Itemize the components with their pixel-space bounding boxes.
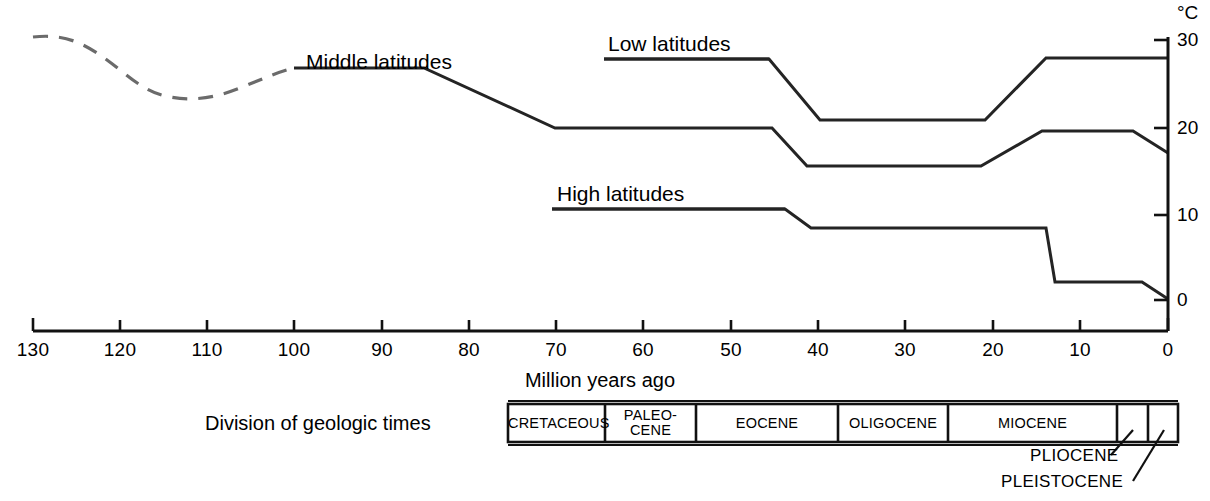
epoch-cell-paleocene-line2: CENE xyxy=(605,423,696,438)
x-axis-title: Million years ago xyxy=(525,370,675,390)
paleotemperature-figure: °C 30 20 10 0 130 120 110 100 90 80 70 6… xyxy=(0,0,1210,501)
x-tick-label-130: 130 xyxy=(17,340,49,359)
epoch-cell-eocene: EOCENE xyxy=(696,416,838,431)
x-tick-label-30: 30 xyxy=(894,340,916,359)
x-axis-ticks xyxy=(33,318,1168,331)
series-label-low-latitudes: Low latitudes xyxy=(608,33,731,54)
epoch-cell-miocene: MIOCENE xyxy=(948,416,1117,431)
x-tick-label-70: 70 xyxy=(545,340,567,359)
y-axis-unit-label: °C xyxy=(1177,3,1198,22)
x-tick-label-40: 40 xyxy=(807,340,829,359)
series-high-latitudes xyxy=(552,209,1168,299)
x-tick-label-80: 80 xyxy=(458,340,480,359)
x-tick-label-110: 110 xyxy=(192,340,223,359)
series-label-high-latitudes: High latitudes xyxy=(557,183,684,204)
x-tick-label-60: 60 xyxy=(632,340,654,359)
x-tick-label-20: 20 xyxy=(982,340,1004,359)
series-middle-latitudes xyxy=(294,68,1168,166)
epoch-label-pliocene: PLIOCENE xyxy=(1030,447,1118,464)
x-tick-label-90: 90 xyxy=(371,340,393,359)
x-tick-label-120: 120 xyxy=(104,340,136,359)
x-tick-label-50: 50 xyxy=(720,340,742,359)
series-label-middle-latitudes: Middle latitudes xyxy=(306,51,452,72)
y-tick-label-10: 10 xyxy=(1177,205,1199,224)
geologic-divisions-title: Division of geologic times xyxy=(205,413,431,433)
series-middle-latitudes-dashed xyxy=(33,36,294,99)
x-tick-label-0: 0 xyxy=(1163,340,1174,359)
y-tick-label-0: 0 xyxy=(1177,290,1188,309)
y-tick-label-20: 20 xyxy=(1177,118,1199,137)
y-axis-ticks xyxy=(1154,40,1168,300)
x-tick-label-10: 10 xyxy=(1069,340,1091,359)
y-tick-label-30: 30 xyxy=(1177,30,1199,49)
epoch-cell-paleocene: PALEO- CENE xyxy=(605,408,696,438)
epoch-label-pleistocene: PLEISTOCENE xyxy=(1001,473,1123,490)
x-tick-label-100: 100 xyxy=(278,340,310,359)
epoch-cell-oligocene: OLIGOCENE xyxy=(838,416,948,431)
series-low-latitudes xyxy=(604,58,1168,120)
epoch-cell-cretaceous: CRETACEOUS xyxy=(508,416,605,431)
epoch-cell-paleocene-line1: PALEO- xyxy=(605,408,696,423)
